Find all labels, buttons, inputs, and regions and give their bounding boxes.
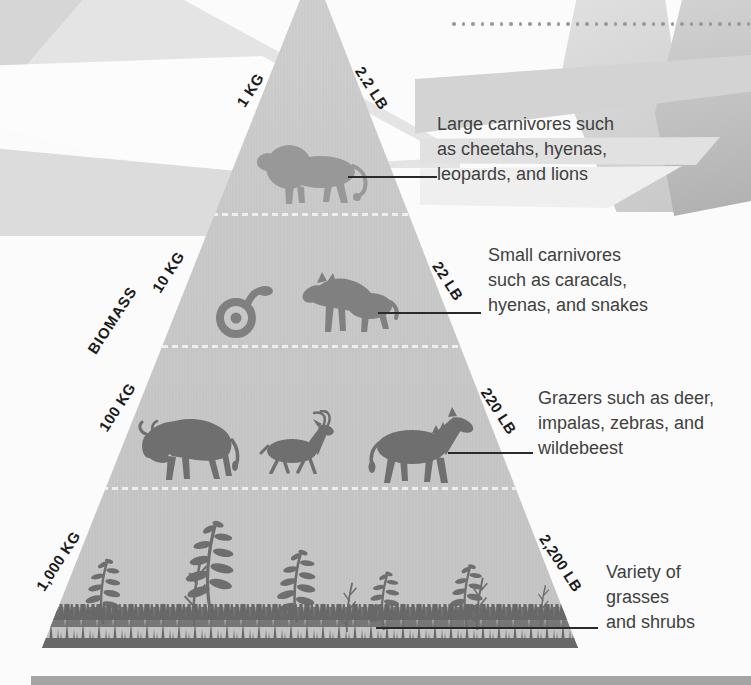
rule-dot [728,22,732,26]
rule-dot [604,22,608,26]
rule-dot [699,22,703,26]
rule-dot [614,22,618,26]
leader-line-level1 [348,176,437,178]
annotation-small-carnivores: Small carnivores such as caracals, hyena… [488,243,648,318]
rule-dot [585,22,589,26]
background-wedge [0,0,460,168]
annotation-line: impalas, zebras, and [538,411,714,436]
impala-icon [252,410,344,474]
background-wedge [0,0,150,96]
level-separator [42,345,578,348]
background-block [655,0,751,216]
lion-icon [255,142,373,206]
annotation-line: as cheetahs, hyenas, [437,137,614,162]
wildebeest-icon [138,412,244,482]
annotation-line: Variety of [606,560,695,585]
annotation-producers: Variety of grasses and shrubs [606,560,695,635]
rule-dot [652,22,656,26]
annotation-line: hyenas, and snakes [488,293,648,318]
rule-dot [547,22,551,26]
annotation-line: Grazers such as deer, [538,386,714,411]
grasses-shrubs-icon [42,488,578,648]
leader-line-level3 [448,452,533,454]
annotation-line: Small carnivores [488,243,648,268]
rule-dot [519,22,523,26]
zebra-icon [360,405,482,485]
rule-dot [623,22,627,26]
annotation-line: wildebeest [538,436,714,461]
rule-dot [718,22,722,26]
rule-dot [490,22,494,26]
rule-dot [595,22,599,26]
annotation-line: and shrubs [606,610,695,635]
annotation-line: Large carnivores such [437,112,614,137]
biomass-axis-label: BIOMASS [84,283,140,357]
pyramid [42,0,578,648]
rule-dot [709,22,713,26]
rule-dot [462,22,466,26]
rule-dot [747,22,751,26]
rule-dot [471,22,475,26]
hyena-icon [300,268,404,336]
leader-line-level2 [378,312,481,314]
level-separator [42,487,578,490]
rule-dot [528,22,532,26]
annotation-line: such as caracals, [488,268,648,293]
rule-dot [576,22,580,26]
snake-icon [203,283,275,339]
rule-dot [509,22,513,26]
annotation-line: leopards, and lions [437,162,614,187]
rule-dot [500,22,504,26]
level-separator [42,213,578,216]
annotation-line: grasses [606,585,695,610]
kg-label-level2: 10 KG [149,248,188,295]
rule-dot [452,22,456,26]
annotation-grazers: Grazers such as deer, impalas, zebras, a… [538,386,714,461]
rule-dot [538,22,542,26]
rule-dot [566,22,570,26]
bottom-section-bar [31,676,751,685]
rule-dot [737,22,741,26]
leader-line-level4 [376,627,598,629]
rule-dot [642,22,646,26]
dotted-rule [452,21,751,27]
rule-dot [661,22,665,26]
rule-dot [481,22,485,26]
rule-dot [557,22,561,26]
annotation-large-carnivores: Large carnivores such as cheetahs, hyena… [437,112,614,187]
rule-dot [690,22,694,26]
rule-dot [633,22,637,26]
rule-dot [671,22,675,26]
biomass-pyramid-diagram: 1 KG 10 KG BIOMASS 100 KG 1,000 KG 2.2 L… [0,0,751,685]
rule-dot [680,22,684,26]
